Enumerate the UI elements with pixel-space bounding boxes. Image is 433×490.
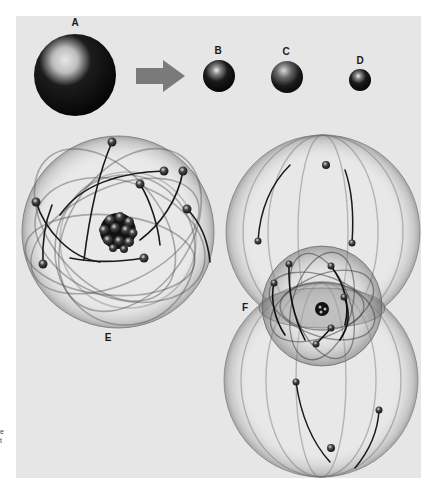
sphere-a xyxy=(34,34,116,116)
label-f: F xyxy=(242,302,248,313)
atom-diagram: A B C D xyxy=(0,0,433,490)
label-b: B xyxy=(214,45,221,56)
nucleus-f xyxy=(315,302,329,316)
label-d: D xyxy=(356,55,363,66)
sphere-d xyxy=(349,69,371,91)
label-e: E xyxy=(105,332,112,343)
sphere-c xyxy=(271,61,303,93)
side-mark-2: t xyxy=(0,437,2,444)
side-mark-1: e xyxy=(0,428,4,435)
sphere-b xyxy=(203,60,235,92)
label-c: C xyxy=(282,46,289,57)
label-a: A xyxy=(71,17,78,28)
